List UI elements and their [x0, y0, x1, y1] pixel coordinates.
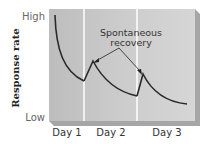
y-axis-label: Response rate: [10, 28, 21, 107]
y-tick-low: Low: [25, 112, 45, 123]
x-tick-day-2: Day 2: [96, 127, 125, 138]
plot-area: [49, 9, 195, 121]
x-tick-day-1: Day 1: [52, 127, 81, 138]
habituation-chart: Spontaneous recovery High Low Response r…: [0, 0, 216, 144]
y-tick-high: High: [22, 11, 45, 22]
x-tick-day-3: Day 3: [152, 127, 181, 138]
annotation-line-2: recovery: [110, 37, 152, 48]
